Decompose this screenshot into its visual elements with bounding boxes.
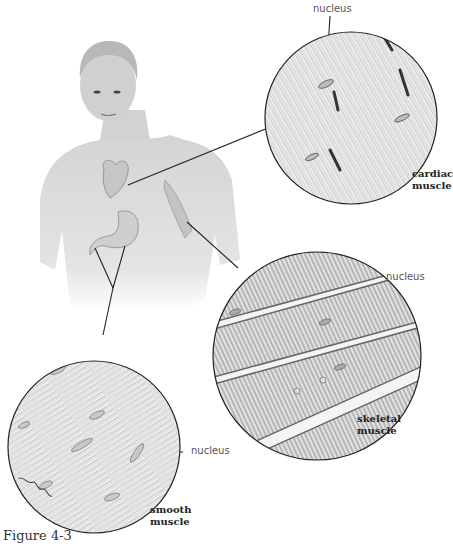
skeletal-title: skeletal muscle <box>357 413 401 437</box>
right-eye <box>114 91 121 94</box>
cardiac-nucleus-label: nucleus <box>313 3 352 14</box>
human-figure <box>40 41 240 312</box>
cardiac-title: cardiac muscle <box>412 168 453 192</box>
torso <box>40 135 240 312</box>
smooth-title-line2: muscle <box>150 516 191 528</box>
left-eye <box>94 91 101 94</box>
skeletal-title-line1: skeletal <box>357 413 401 425</box>
smooth-nucleus-label: nucleus <box>191 445 230 456</box>
skeletal-title-line2: muscle <box>357 425 401 437</box>
smooth-title: smooth muscle <box>150 504 191 528</box>
skeletal-nucleus-label: nucleus <box>386 271 425 282</box>
cardiac-title-line1: cardiac <box>412 168 453 180</box>
smooth-title-line1: smooth <box>150 504 191 516</box>
cardiac-title-line2: muscle <box>412 180 453 192</box>
figure-caption: Figure 4-3 <box>3 528 72 543</box>
